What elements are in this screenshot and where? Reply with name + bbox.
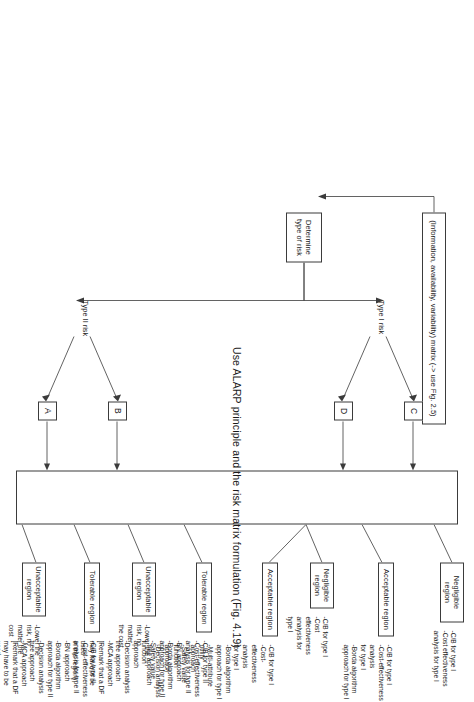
region-header-acceptable-2-label: Acceptable region: [381, 569, 390, 630]
region-header-tolerable-2: Tolerable region: [84, 562, 100, 632]
type-2-risk-text: Type II risk: [81, 300, 90, 336]
node-a: A: [38, 401, 57, 420]
wire-determine-type2: [82, 262, 304, 300]
region-header-negligible-2: Negligible region: [440, 562, 464, 622]
wire-type1-d: [344, 336, 370, 396]
alarp-label: Use ALARP principle and the risk matrix …: [231, 346, 243, 647]
wire-determine-type1: [304, 262, 378, 300]
arrow-type2-b: [113, 394, 121, 401]
arrow-type1-d: [338, 394, 346, 401]
region-items-negligible-2-text: -C/B for type I -Cost effectiveness anal…: [433, 630, 457, 686]
node-b: B: [108, 401, 127, 420]
node-d: D: [334, 401, 353, 420]
arrow-type2-a: [42, 394, 50, 401]
input-matrix-box: (Information, availability, variability)…: [422, 212, 446, 424]
wire-input-to-determine: [324, 196, 434, 212]
wire-alarp-tolerable1: [184, 524, 202, 562]
wire-type1-c: [386, 336, 412, 396]
region-header-negligible-1: Negligible region: [310, 562, 334, 608]
arrow-c-alarp: [410, 463, 416, 470]
region-header-tolerable-2-label: Tolerable region: [87, 570, 96, 624]
region-header-unacceptable-2: Unacceptable region: [22, 562, 46, 616]
input-matrix-label: (Information, availability, variability)…: [430, 220, 439, 416]
wire-alarp-acceptable1: [269, 524, 306, 562]
determine-label: Determine type of risk: [295, 219, 313, 256]
region-header-negligible-1-label: Negligible region: [313, 568, 331, 601]
region-items-unacceptable-1: -Lower the risk, no matter the cost: [116, 624, 160, 674]
region-items-unacceptable-1-text: -Lower the risk, no matter the cost: [118, 624, 151, 655]
wire-alarp-unacceptable2: [22, 524, 36, 562]
region-items-negligible-2: -C/B for type I -Cost effectiveness anal…: [431, 630, 466, 694]
region-header-negligible-2-label: Negligible region: [443, 575, 461, 608]
node-a-label: A: [42, 408, 52, 414]
node-c: C: [404, 401, 423, 420]
wire-alarp-negligible2: [434, 524, 452, 562]
region-header-acceptable-1: Acceptable region: [262, 562, 278, 636]
arrow-a-alarp: [44, 463, 50, 470]
region-header-unacceptable-1-label: Unacceptable region: [135, 566, 153, 612]
wire-alarp-tolerable2: [74, 524, 90, 562]
wire-type2-a: [48, 336, 74, 396]
region-items-acceptable-2: -C/B for type I -Cost-effectiveness anal…: [341, 644, 402, 702]
wire-alarp-negligible1: [306, 524, 322, 562]
region-header-tolerable-1: Tolerable region: [196, 562, 212, 632]
arrow-b-alarp: [114, 463, 120, 470]
type-1-risk-text: Type I risk: [377, 300, 386, 334]
determine-type-of-risk-box: Determine type of risk: [286, 212, 322, 262]
type-1-risk-label: Type I risk: [377, 300, 386, 350]
arrow-input-to-determine: [318, 193, 326, 199]
node-d-label: D: [338, 407, 348, 413]
node-c-label: C: [408, 407, 418, 413]
region-items-negligible-1-text: -C/B for type I -Cost effectiveness anal…: [287, 616, 329, 657]
arrow-d-alarp: [340, 463, 346, 470]
type-2-risk-label: Type II risk: [81, 300, 90, 354]
region-items-acceptable-2-text: -C/B for type I -Cost-effectiveness anal…: [343, 644, 394, 700]
region-items-unacceptable-2-text: -Lower the risk, no matter the cost: [8, 624, 41, 655]
region-header-unacceptable-2-label: Unacceptable region: [25, 566, 43, 612]
region-items-unacceptable-2: -Lower the risk, no matter the cost: [6, 624, 50, 674]
region-items-negligible-1: -C/B for type I -Cost effectiveness anal…: [286, 616, 338, 678]
region-header-acceptable-1-label: Acceptable region: [265, 569, 274, 630]
arrow-type1-c: [409, 394, 417, 401]
region-header-tolerable-1-label: Tolerable region: [199, 570, 208, 624]
wire-alarp-acceptable2: [362, 524, 382, 562]
region-header-acceptable-2: Acceptable region: [378, 562, 394, 636]
region-header-unacceptable-1: Unacceptable region: [132, 562, 156, 616]
wire-alarp-unacceptable1: [128, 524, 144, 562]
node-b-label: B: [112, 408, 122, 414]
wire-type2-b: [90, 336, 116, 396]
alarp-principle-bar: Use ALARP principle and the risk matrix …: [16, 470, 458, 524]
